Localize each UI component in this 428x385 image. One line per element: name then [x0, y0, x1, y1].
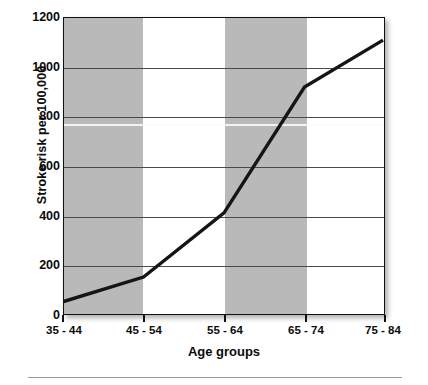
y-tick-label: 0 — [2, 308, 60, 322]
y-tick-label: 400 — [2, 209, 60, 223]
x-tick-mark-55-64 — [224, 315, 226, 322]
plot-area — [63, 17, 385, 315]
x-tick-mark-45-54 — [143, 315, 145, 322]
x-tick-mark-75-84 — [384, 315, 386, 322]
x-tick-mark-65-74 — [305, 315, 307, 322]
x-tick-label-75-84: 75 - 84 — [338, 324, 428, 336]
stroke-risk-chart-figure: Stroke risk per 100,000 1200 1000 800 60… — [0, 0, 428, 385]
y-tick-label: 600 — [2, 159, 60, 173]
y-tick-label: 1200 — [2, 10, 60, 24]
x-tick-label-45-54: 45 - 54 — [99, 324, 189, 336]
x-axis-title: Age groups — [63, 344, 385, 359]
x-tick-label-55-64: 55 - 64 — [180, 324, 270, 336]
footer-divider — [28, 377, 402, 378]
x-tick-mark-35-44 — [62, 315, 64, 322]
x-tick-label-35-44: 35 - 44 — [19, 324, 109, 336]
y-tick-label: 200 — [2, 258, 60, 272]
stroke-risk-line-series — [64, 18, 384, 314]
y-tick-label: 800 — [2, 109, 60, 123]
y-tick-label: 1000 — [2, 60, 60, 74]
series-polyline — [64, 40, 383, 302]
